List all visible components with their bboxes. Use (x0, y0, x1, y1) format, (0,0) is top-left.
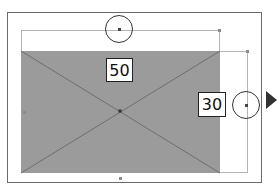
center-handle[interactable] (119, 110, 122, 113)
height-label: 30 (198, 92, 226, 117)
height-end-handle[interactable] (246, 50, 249, 53)
width-label: 50 (106, 58, 133, 82)
handle-dot-icon (245, 104, 248, 107)
width-end-handle[interactable] (218, 29, 221, 32)
handle-dot-icon (118, 28, 121, 31)
left-edge-handle[interactable] (23, 111, 26, 114)
bottom-edge-handle[interactable] (119, 177, 122, 180)
play-arrow-icon[interactable] (266, 91, 277, 109)
width-drag-handle[interactable] (105, 15, 133, 43)
diagram-canvas: 50 30 (0, 0, 279, 196)
height-drag-handle[interactable] (232, 91, 260, 119)
